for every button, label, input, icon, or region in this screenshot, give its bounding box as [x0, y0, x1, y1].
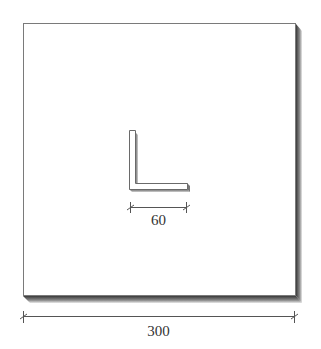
dimension-label-60: 60 [151, 212, 166, 228]
square-plate [24, 24, 296, 296]
diagram-canvas: 60 300 [0, 0, 321, 349]
plate-shadow-bottom [23, 296, 302, 303]
plate-shadow-right [296, 24, 302, 303]
dimension-plate-width: 300 [20, 311, 298, 339]
dimension-label-300: 300 [147, 323, 170, 339]
